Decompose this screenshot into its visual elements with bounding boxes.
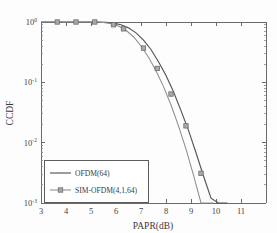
series-marker xyxy=(169,92,173,96)
series-marker xyxy=(111,23,115,27)
legend-label: SIM-OFDM(4,1,64) xyxy=(75,186,137,195)
series-marker xyxy=(155,66,159,70)
y-tick-label: 100 xyxy=(26,17,38,27)
legend-label: OFDM(64) xyxy=(75,169,110,178)
y-axis-label: CCDF xyxy=(5,101,15,126)
series-marker xyxy=(74,20,78,24)
ccdf-papr-plot: 34567891011 10010-110-210-3 PAPR(dB) CCD… xyxy=(0,0,277,233)
series-marker xyxy=(93,20,97,24)
series-marker xyxy=(55,20,59,24)
series-marker xyxy=(141,46,145,50)
series-marker xyxy=(121,27,125,31)
x-axis-tick-labels: 34567891011 xyxy=(39,206,245,216)
x-tick-label: 7 xyxy=(139,206,143,216)
x-tick-label: 3 xyxy=(39,206,43,216)
x-axis-label: PAPR(dB) xyxy=(133,221,173,232)
x-tick-label: 4 xyxy=(64,206,69,216)
y-tick-label: 10-2 xyxy=(24,137,37,147)
legend-box xyxy=(44,160,148,202)
chart-legend: OFDM(64)SIM-OFDM(4,1,64) xyxy=(44,160,148,202)
series-marker xyxy=(199,171,203,175)
y-tick-label: 10-1 xyxy=(24,77,37,87)
x-tick-label: 11 xyxy=(237,206,245,216)
x-tick-label: 5 xyxy=(89,206,93,216)
chart-figure: 34567891011 10010-110-210-3 PAPR(dB) CCD… xyxy=(0,0,277,233)
series-marker xyxy=(184,124,188,128)
x-tick-label: 9 xyxy=(189,206,193,216)
x-tick-label: 6 xyxy=(114,206,118,216)
y-tick-label: 10-3 xyxy=(24,198,37,208)
x-tick-label: 8 xyxy=(164,206,168,216)
marker-layer xyxy=(55,20,203,176)
legend-swatch-marker xyxy=(58,188,62,192)
x-tick-label: 10 xyxy=(212,206,221,216)
y-axis-tick-labels: 10010-110-210-3 xyxy=(24,17,37,208)
